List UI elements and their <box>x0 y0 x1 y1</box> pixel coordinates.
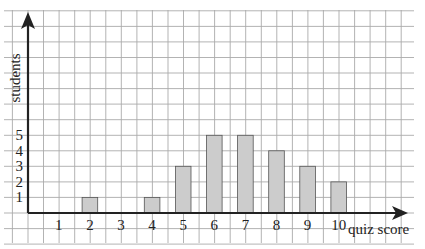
y-axis-label: students <box>7 53 23 102</box>
bar-score-9 <box>300 166 316 213</box>
y-tick-label: 4 <box>16 143 24 159</box>
x-tick-labels: 12345678910 <box>55 217 346 233</box>
x-tick-label: 6 <box>211 217 219 233</box>
x-tick-label: 5 <box>179 217 187 233</box>
x-tick-label: 4 <box>148 217 156 233</box>
y-tick-label: 5 <box>16 127 24 143</box>
bar-score-10 <box>331 182 347 213</box>
y-tick-labels: 12345 <box>16 127 24 205</box>
x-tick-label: 9 <box>304 217 312 233</box>
bar-score-2 <box>82 197 98 213</box>
y-tick-label: 2 <box>16 174 24 190</box>
x-tick-label: 10 <box>331 217 346 233</box>
bar-score-6 <box>207 135 223 213</box>
bar-score-8 <box>269 151 285 213</box>
x-tick-label: 3 <box>117 217 125 233</box>
x-tick-label: 7 <box>242 217 250 233</box>
y-tick-label: 1 <box>16 189 24 205</box>
bar-score-7 <box>238 135 254 213</box>
x-axis-label: quiz score <box>348 221 410 237</box>
bar-score-5 <box>175 166 191 213</box>
bar-score-4 <box>144 197 160 213</box>
histogram-chart: 12345678910 12345 quiz score students <box>0 0 425 249</box>
x-tick-label: 1 <box>55 217 63 233</box>
y-tick-label: 3 <box>16 158 24 174</box>
x-tick-label: 2 <box>86 217 94 233</box>
x-tick-label: 8 <box>273 217 281 233</box>
bars <box>82 135 346 213</box>
